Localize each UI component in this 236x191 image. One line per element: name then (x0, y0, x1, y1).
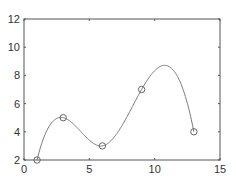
tick-labels-layer: 05101524681012 (8, 13, 226, 175)
x-tick-label: 0 (21, 163, 27, 175)
y-tick-label: 4 (14, 126, 20, 138)
y-tick-label: 8 (14, 69, 20, 81)
x-tick-label: 15 (214, 163, 226, 175)
x-tick-label: 10 (149, 163, 161, 175)
ticks-layer (24, 19, 220, 160)
plot-area-frame (24, 19, 220, 160)
y-tick-label: 6 (14, 98, 20, 110)
y-tick-label: 2 (14, 154, 20, 166)
spline-curve (37, 65, 194, 160)
x-tick-label: 5 (86, 163, 92, 175)
y-tick-label: 12 (8, 13, 20, 25)
y-tick-label: 10 (8, 41, 20, 53)
spline-chart: 05101524681012 (0, 0, 236, 191)
markers-layer (34, 86, 197, 163)
